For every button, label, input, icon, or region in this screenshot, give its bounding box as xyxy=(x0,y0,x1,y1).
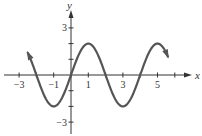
x-tick-label: 1 xyxy=(86,79,91,90)
y-tick-label: −3 xyxy=(56,117,67,128)
x-tick-label: 5 xyxy=(155,79,160,90)
y-axis-arrow-icon xyxy=(69,10,74,18)
x-tick-label: 3 xyxy=(120,79,125,90)
x-axis-label: x xyxy=(194,69,200,81)
sine-graph: −3−11353−3 x y xyxy=(0,0,202,136)
x-tick-label: −1 xyxy=(48,79,59,90)
x-tick-label: −3 xyxy=(14,79,25,90)
y-tick-label: 3 xyxy=(62,22,67,33)
curve-arrowhead-icon xyxy=(27,51,34,60)
curve-arrowhead-icon xyxy=(162,49,168,58)
y-axis-label: y xyxy=(66,0,72,11)
axes xyxy=(4,10,192,134)
x-axis-arrow-icon xyxy=(184,73,192,78)
